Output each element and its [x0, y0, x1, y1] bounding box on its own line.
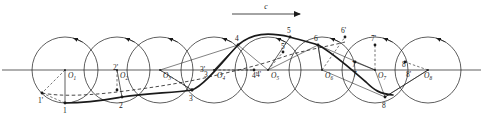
point-marker-6 — [317, 44, 320, 47]
point-marker-8 — [384, 96, 387, 99]
point-label-8': 8' — [402, 60, 408, 69]
point-marker-5' — [282, 51, 285, 54]
center-label-O1: O1 — [68, 71, 76, 81]
chord-4-O5 — [238, 45, 268, 70]
point-label-2: 2 — [119, 101, 123, 110]
point-label-6: 6 — [314, 34, 318, 43]
point-marker-4 — [237, 44, 240, 47]
tie-1prime-1 — [42, 93, 65, 103]
point-label-8: 8 — [382, 101, 386, 110]
rotation-arrow-4 — [223, 38, 232, 42]
radius-to-aux-point-8' — [405, 62, 428, 70]
center-dot-O6 — [321, 69, 323, 71]
velocity-label-c: c — [264, 2, 268, 11]
chord-6-O6 — [318, 45, 322, 70]
rotation-arrow-6 — [331, 38, 340, 42]
radius-to-aux-point-5' — [268, 52, 283, 70]
point-label-7': 7' — [371, 34, 377, 43]
cycloid-diagram-svg: c 123456781'2'3'4'5'6'7'8' O1O2O3O4O5O6O… — [0, 0, 483, 124]
center-dot-O5 — [267, 69, 269, 71]
point-marker-5 — [289, 36, 292, 39]
center-dot-O7 — [374, 69, 376, 71]
center-dot-O4 — [213, 69, 215, 71]
center-dot-O2 — [116, 69, 118, 71]
point-label-4: 4 — [235, 34, 239, 43]
rotation-arrow-8 — [437, 38, 446, 42]
rotation-arrow-2 — [126, 38, 135, 42]
point-marker-1' — [41, 92, 44, 95]
rotation-arrow-1 — [74, 38, 83, 42]
point-marker-1 — [64, 102, 67, 105]
axis-mark-8': 8' — [406, 70, 412, 79]
figure-canvas: c 123456781'2'3'4'5'6'7'8' O1O2O3O4O5O6O… — [0, 0, 483, 124]
radius-to-aux-point-1' — [42, 70, 65, 93]
point-marker-7' — [374, 44, 377, 47]
rotation-arrow-3 — [169, 38, 178, 42]
point-marker-2' — [116, 89, 119, 92]
center-label-O3: O3 — [163, 71, 171, 81]
radius-to-aux-point-6' — [322, 37, 345, 70]
point-label-2': 2' — [113, 63, 119, 72]
velocity-arrow-group: c — [232, 2, 300, 14]
center-label-O8: O8 — [424, 71, 432, 81]
auxiliary-trochoid-curve — [42, 42, 345, 95]
point-label-5: 5 — [287, 26, 291, 35]
point-marker-6' — [344, 36, 347, 39]
center-dot-O1 — [64, 69, 66, 71]
center-label-O5: O5 — [271, 71, 279, 81]
point-label-1: 1 — [63, 106, 67, 115]
axis-mark-3: 3 — [204, 70, 208, 79]
center-dot-O3 — [159, 69, 161, 71]
point-label-5': 5' — [281, 42, 287, 51]
center-labels-group: O1O2O3O4O5O6O7O8 — [64, 69, 432, 81]
point-label-1': 1' — [38, 96, 44, 105]
point-marker-3' — [191, 89, 194, 92]
rotation-arrow-7 — [384, 38, 393, 42]
point-label-6': 6' — [341, 26, 347, 35]
axis-mark-4': 4' — [256, 70, 262, 79]
point-marker-2 — [121, 96, 124, 99]
axis-mark-7: 7 — [353, 70, 357, 79]
point-label-7: 7 — [352, 60, 356, 69]
point-label-3: 3 — [189, 94, 193, 103]
center-dot-O8 — [427, 69, 429, 71]
center-label-O6: O6 — [325, 71, 333, 81]
radius-to-point-5 — [268, 37, 290, 70]
center-label-O7: O7 — [378, 71, 386, 81]
center-label-O4: O4 — [217, 71, 225, 81]
